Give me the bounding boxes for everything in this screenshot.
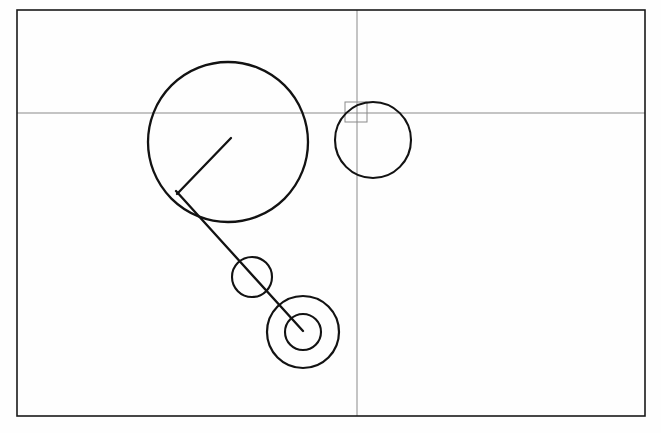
diagram-svg <box>0 0 661 433</box>
paper-background <box>0 0 661 433</box>
sketch-canvas <box>0 0 661 433</box>
